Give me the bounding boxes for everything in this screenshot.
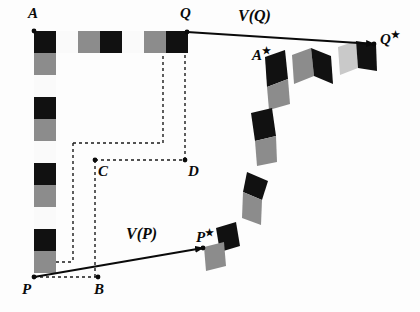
label-Q-star-text: Q [380,31,391,47]
label-vector-VQ-text: V(Q) [238,7,271,24]
checker-strip-horizontal-cell-6 [166,31,188,53]
deformed-checker-chain-cell-7 [255,136,277,166]
label-D: D [188,164,199,179]
checker-strip-vertical-cell-6 [34,163,56,185]
vector-arrow-VQ [187,32,374,44]
label-Q-text: Q [180,5,191,21]
label-Q-star-star-glyph: ★ [391,29,400,40]
deformed-checker-chain-cell-11 [204,242,226,271]
label-Q: Q [180,6,191,21]
label-P-star: P★ [196,228,214,245]
label-D-text: D [188,163,199,179]
label-C: C [98,164,108,179]
label-Q-star: Q★ [380,30,400,47]
label-vector-VP-text: V(P) [126,225,157,242]
point-Q-star [372,42,377,47]
checker-strip-vertical-cell-9 [34,229,56,251]
checker-strip-vertical-cell-1 [34,53,56,75]
label-A-star-star-glyph: ★ [262,45,271,56]
checker-strip-horizontal-cell-3 [100,31,122,53]
label-P-text: P [22,281,31,297]
checker-strip-vertical-cell-5 [34,141,56,163]
label-vector-VP: V(P) [126,226,157,242]
checker-strip-vertical-cell-4 [34,119,56,141]
point-B [96,275,101,280]
point-C [93,158,98,163]
deformed-checker-chain-cell-2 [338,41,358,75]
label-A-star-text: A [252,47,262,63]
label-P: P [22,282,31,297]
checker-strip-horizontal-cell-1 [56,31,78,53]
deformed-checker-chain-cell-1 [311,48,333,84]
point-A [32,29,37,34]
point-Q [185,30,190,35]
label-C-text: C [98,163,108,179]
label-B: B [94,282,104,297]
deformed-checker-chain-cell-6 [251,108,276,141]
checker-strip-horizontal-cell-0 [34,31,56,53]
point-D [183,158,188,163]
point-P-star [201,246,206,251]
label-A-text: A [28,5,38,21]
label-B-text: B [94,281,104,297]
checker-strip-horizontal-cell-4 [122,31,144,53]
deformed-chain-group [204,41,377,271]
label-P-star-star-glyph: ★ [205,227,214,238]
label-vector-VQ: V(Q) [238,8,271,24]
checker-strip-vertical-cell-8 [34,207,56,229]
dashed-guides-group [34,53,185,277]
checker-strip-vertical-cell-2 [34,75,56,97]
vector-arrow-VP [34,248,203,277]
label-A-star: A★ [252,46,271,63]
checker-strips-group [34,31,188,273]
checker-strip-vertical-cell-3 [34,97,56,119]
checker-strip-vertical-cell-7 [34,185,56,207]
figure-svg [0,0,420,312]
point-P [32,275,37,280]
checker-strip-horizontal-cell-2 [78,31,100,53]
label-P-star-text: P [196,229,205,245]
figure-canvas: AQQ★A★CDPBP★V(Q)V(P) [0,0,420,312]
label-A: A [28,6,38,21]
deformed-checker-chain-cell-0 [292,48,314,84]
checker-strip-vertical-cell-10 [34,251,56,273]
checker-strip-horizontal-cell-5 [144,31,166,53]
